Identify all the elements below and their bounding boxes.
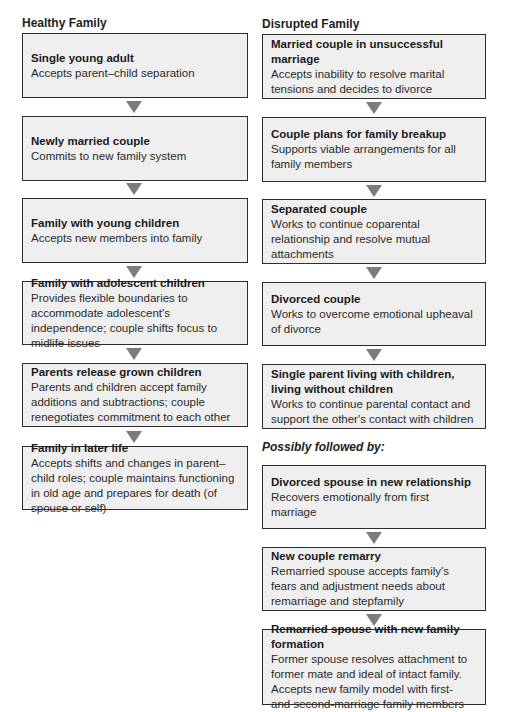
stage-title: Single parent living with children, livi…: [271, 367, 475, 397]
stage-box-newly-married-couple: Newly married couple Commits to new fami…: [22, 116, 248, 181]
stage-desc: Works to continue coparental relationshi…: [271, 217, 475, 262]
stage-title: Single young adult: [31, 51, 237, 66]
stage-title: Family in later life: [31, 441, 237, 456]
stage-box-new-family-formation: Remarried spouse with new family formati…: [262, 629, 486, 705]
stage-desc: Recovers emotionally from first marriage: [271, 490, 475, 520]
stage-box-release-grown-children: Parents release grown children Parents a…: [22, 363, 248, 427]
possibly-followed-by-label: Possibly followed by:: [262, 440, 385, 454]
stage-box-separated-couple: Separated couple Works to continue copar…: [262, 199, 486, 264]
stage-desc: Commits to new family system: [31, 149, 237, 164]
stage-desc: Accepts inability to resolve marital ten…: [271, 67, 475, 97]
stage-desc: Former spouse resolves attachment to for…: [271, 652, 475, 712]
stage-box-new-relationship: Divorced spouse in new relationship Reco…: [262, 465, 486, 529]
stage-desc: Works to continue parental contact and s…: [271, 397, 475, 427]
stage-title: Separated couple: [271, 202, 475, 217]
stage-desc: Works to overcome emotional upheaval of …: [271, 307, 475, 337]
stage-title: Family with young children: [31, 216, 237, 231]
disrupted-family-heading: Disrupted Family: [262, 17, 359, 31]
down-arrow-icon: [366, 349, 382, 361]
stage-desc: Provides flexible boundaries to accommod…: [31, 291, 237, 351]
down-arrow-icon: [126, 348, 142, 360]
stage-title: New couple remarry: [271, 549, 475, 564]
stage-desc: Parents and children accept family addit…: [31, 380, 237, 425]
stage-box-young-children: Family with young children Accepts new m…: [22, 198, 248, 263]
stage-title: Family with adolescent children: [31, 276, 237, 291]
down-arrow-icon: [366, 267, 382, 279]
stage-title: Newly married couple: [31, 134, 237, 149]
stage-title: Remarried spouse with new family formati…: [271, 622, 475, 652]
stage-box-single-young-adult: Single young adult Accepts parent–child …: [22, 33, 248, 98]
down-arrow-icon: [126, 183, 142, 195]
stage-box-later-life: Family in later life Accepts shifts and …: [22, 446, 248, 510]
stage-title: Married couple in unsuccessful marriage: [271, 37, 475, 67]
stage-desc: Remarried spouse accepts family's fears …: [271, 564, 475, 609]
stage-desc: Accepts parent–child separation: [31, 66, 237, 81]
stage-title: Couple plans for family breakup: [271, 127, 475, 142]
healthy-family-heading: Healthy Family: [22, 16, 107, 30]
stage-desc: Accepts shifts and changes in parent–chi…: [31, 456, 237, 516]
stage-desc: Accepts new members into family: [31, 231, 237, 246]
stage-box-single-parent: Single parent living with children, livi…: [262, 364, 486, 429]
stage-desc: Supports viable arrangements for all fam…: [271, 142, 475, 172]
down-arrow-icon: [366, 102, 382, 114]
stage-box-plans-breakup: Couple plans for family breakup Supports…: [262, 117, 486, 182]
down-arrow-icon: [366, 532, 382, 544]
stage-box-divorced-couple: Divorced couple Works to overcome emotio…: [262, 282, 486, 346]
stage-title: Parents release grown children: [31, 365, 237, 380]
stage-title: Divorced couple: [271, 292, 475, 307]
stage-box-adolescent-children: Family with adolescent children Provides…: [22, 281, 248, 345]
stage-box-unsuccessful-marriage: Married couple in unsuccessful marriage …: [262, 34, 486, 99]
down-arrow-icon: [366, 185, 382, 197]
stage-title: Divorced spouse in new relationship: [271, 475, 475, 490]
stage-box-new-couple-remarry: New couple remarry Remarried spouse acce…: [262, 547, 486, 611]
down-arrow-icon: [126, 101, 142, 113]
